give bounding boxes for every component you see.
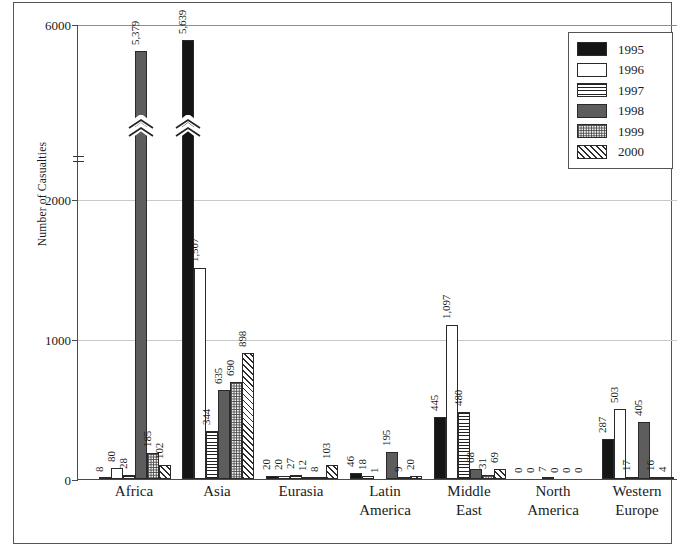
bar-value-label: 31 — [477, 458, 488, 469]
legend-label: 1997 — [618, 84, 644, 97]
chart-legend: 199519961997199819992000 — [568, 32, 673, 169]
bar-value-label: 18 — [357, 460, 368, 471]
figure-frame: Number of Casualties 0100020006000 88028… — [13, 2, 672, 544]
bar-value-label: 20 — [273, 459, 284, 470]
bar-value-label: 12 — [297, 461, 308, 472]
bar-value-label: 68 — [465, 453, 476, 464]
bar-rect[interactable] — [123, 475, 135, 479]
bar-value-label: 635 — [213, 368, 224, 384]
bar-value-label: 102 — [154, 443, 165, 459]
bar-value-label: 185 — [142, 431, 153, 447]
bar-value-label: 4 — [657, 467, 668, 472]
bar-rect[interactable] — [206, 431, 218, 479]
bar-value-label: 344 — [201, 409, 212, 425]
bar-value-label: 20 — [405, 459, 416, 470]
bar-value-label: 103 — [321, 442, 332, 458]
legend-item-1995[interactable]: 1995 — [577, 40, 663, 58]
bar-rect[interactable] — [662, 477, 674, 479]
bar-value-label: 8 — [309, 466, 320, 471]
bar-rect[interactable] — [458, 412, 470, 479]
bar-rect[interactable] — [482, 475, 494, 479]
bar-value-label: 690 — [225, 360, 236, 376]
legend-item-1999[interactable]: 1999 — [577, 122, 663, 140]
bar-rect[interactable] — [362, 476, 374, 479]
legend-swatch-1995 — [577, 42, 607, 56]
bar-value-label: 16 — [645, 460, 656, 471]
bar-value-label: 28 — [118, 458, 129, 469]
bar-rect[interactable] — [99, 477, 111, 479]
bar-group: 46181195920 — [350, 25, 422, 479]
bar-rect[interactable] — [494, 469, 506, 479]
bar-value-label: 5,639 — [177, 10, 188, 34]
bar-rect[interactable] — [266, 476, 278, 479]
bar-value-label: 898 — [237, 331, 248, 347]
bar-value-label: 1 — [369, 467, 380, 472]
bar-group: 202027128103 — [266, 25, 338, 479]
legend-item-1998[interactable]: 1998 — [577, 102, 663, 120]
bar-rect[interactable] — [626, 477, 638, 479]
legend-label: 2000 — [618, 145, 644, 158]
legend-swatch-1998 — [577, 104, 607, 118]
bar-rect[interactable] — [194, 268, 206, 479]
bar-rect[interactable] — [326, 465, 338, 479]
y-tick-label-1000: 1000 — [45, 334, 71, 347]
y-tick-mark-0 — [72, 480, 78, 481]
bar-value-label: 27 — [285, 458, 296, 469]
bar-value-label: 405 — [633, 400, 644, 416]
bar-rect[interactable] — [650, 477, 662, 479]
bar-rect[interactable] — [278, 476, 290, 479]
bar-rect[interactable] — [314, 477, 326, 479]
x-axis-labels: AfricaAsiaEurasiaLatin AmericaMiddle Eas… — [77, 482, 677, 540]
legend-swatch-1999 — [577, 124, 607, 138]
x-axis-label: Western Europe — [582, 482, 687, 520]
bar-value-label: 0 — [561, 468, 572, 473]
legend-label: 1996 — [618, 63, 644, 76]
bar-rect[interactable] — [602, 439, 614, 479]
legend-label: 1999 — [618, 125, 644, 138]
legend-swatch-1996 — [577, 63, 607, 77]
legend-item-1996[interactable]: 1996 — [577, 61, 663, 79]
bar-value-label: 480 — [453, 390, 464, 406]
bar-value-label: 0 — [549, 468, 560, 473]
y-tick-label-0: 0 — [65, 474, 72, 487]
bar-rect[interactable] — [135, 51, 147, 479]
bar-group: 880285,379185102 — [99, 25, 171, 479]
bar-rect[interactable] — [410, 476, 422, 479]
bar-group: 5,6391,507344635690898 — [182, 25, 254, 479]
bar-value-label: 445 — [429, 395, 440, 411]
bar-rect[interactable] — [290, 475, 302, 479]
bar-rect[interactable] — [218, 390, 230, 479]
bar-group: 4451,097480683169 — [434, 25, 506, 479]
bar-value-label: 5,379 — [130, 21, 141, 45]
bar-value-label: 9 — [393, 466, 404, 471]
bar-value-label: 7 — [537, 467, 548, 472]
legend-swatch-1997 — [577, 83, 607, 97]
bar-value-label: 0 — [573, 468, 584, 473]
y-tick-label-2000: 2000 — [45, 194, 71, 207]
bar-rect[interactable] — [302, 477, 314, 479]
bar-rect[interactable] — [434, 417, 446, 479]
bar-value-label: 1,097 — [441, 295, 452, 319]
bar-value-label: 503 — [609, 386, 620, 402]
bar-value-label: 0 — [525, 468, 536, 473]
bar-rect[interactable] — [470, 469, 482, 479]
bar-rect[interactable] — [159, 465, 171, 479]
bar-value-label: 287 — [597, 417, 608, 433]
bar-rect[interactable] — [398, 477, 410, 479]
bar-value-label: 1,507 — [189, 238, 200, 262]
bar-value-label: 8 — [94, 466, 105, 471]
legend-swatch-2000 — [577, 145, 607, 159]
y-tick-label-6000: 6000 — [45, 19, 71, 32]
bar-rect[interactable] — [242, 353, 254, 479]
bar-rect[interactable] — [111, 468, 123, 479]
bar-rect[interactable] — [350, 473, 362, 479]
bar-rect[interactable] — [230, 382, 242, 479]
bar-value-label: 17 — [621, 460, 632, 471]
bar-rect[interactable] — [542, 477, 554, 479]
bar-value-label: 80 — [106, 451, 117, 462]
legend-item-1997[interactable]: 1997 — [577, 81, 663, 99]
legend-item-2000[interactable]: 2000 — [577, 143, 663, 161]
bar-value-label: 46 — [345, 456, 356, 467]
bar-rect[interactable] — [386, 452, 398, 479]
legend-label: 1998 — [618, 104, 644, 117]
